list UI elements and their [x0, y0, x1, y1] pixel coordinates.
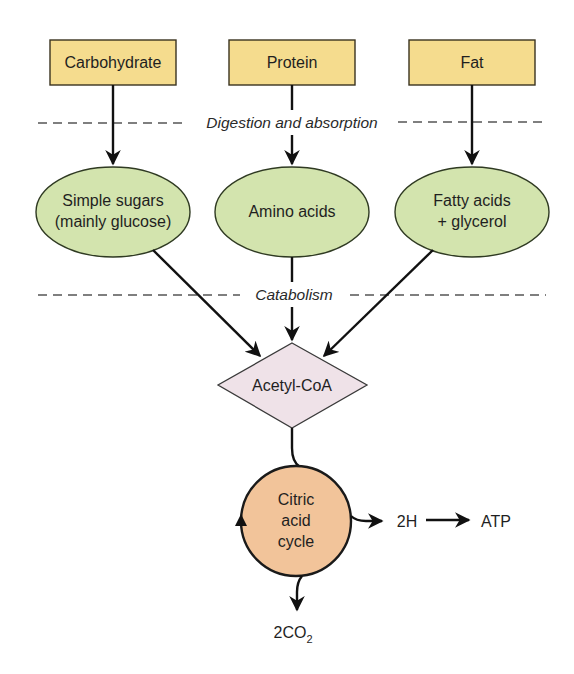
product-amino-acids: Amino acids — [215, 167, 369, 257]
acetyl-coa-node: Acetyl-CoA — [218, 343, 367, 428]
nutrient-box-protein: Protein — [229, 40, 355, 85]
co2-subscript: 2 — [306, 633, 312, 645]
nutrient-box-carbohydrate: Carbohydrate — [50, 40, 176, 85]
connector-acetyl-coa-to-cycle — [292, 428, 300, 467]
nutrient-catabolism-diagram: Carbohydrate Protein Fat Digestion and a… — [0, 0, 574, 674]
acetyl-coa-label: Acetyl-CoA — [252, 377, 332, 394]
output-2h: 2H — [397, 513, 417, 530]
nutrient-label: Protein — [267, 54, 318, 71]
stage-label-digestion: Digestion and absorption — [206, 114, 377, 131]
product-label-line1: Amino acids — [248, 203, 335, 220]
arrow-sugars-to-acetyl-coa — [153, 250, 260, 356]
product-simple-sugars: Simple sugars (mainly glucose) — [36, 167, 190, 257]
cycle-label-line1: Citric — [278, 491, 314, 508]
product-fatty-acids-glycerol: Fatty acids + glycerol — [395, 167, 549, 257]
arrow-cycle-to-co2 — [297, 576, 302, 610]
output-atp: ATP — [481, 513, 511, 530]
citric-acid-cycle-node: Citric acid cycle — [235, 466, 351, 576]
product-label-line1: Simple sugars — [62, 192, 163, 209]
product-label-line2: (mainly glucose) — [55, 213, 171, 230]
arrow-cycle-to-2h — [351, 516, 382, 521]
catabolism-separator: Catabolism — [38, 286, 546, 303]
cycle-label-line2: acid — [281, 512, 310, 529]
product-label-line1: Fatty acids — [433, 192, 510, 209]
output-co2: 2CO2 — [273, 624, 312, 645]
arrow-fatty-acids-to-acetyl-coa — [324, 250, 433, 356]
stage-label-catabolism: Catabolism — [255, 286, 333, 303]
product-label-line2: + glycerol — [438, 213, 507, 230]
nutrient-label: Carbohydrate — [65, 54, 162, 71]
cycle-label-line3: cycle — [278, 533, 315, 550]
nutrient-label: Fat — [460, 54, 484, 71]
nutrient-box-fat: Fat — [409, 40, 535, 85]
co2-main: 2CO — [273, 624, 306, 641]
